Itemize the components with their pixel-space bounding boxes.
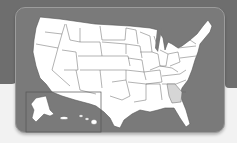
- state-alaska: [31, 96, 54, 122]
- state-hawaii: [60, 115, 97, 125]
- us-map: [0, 0, 237, 143]
